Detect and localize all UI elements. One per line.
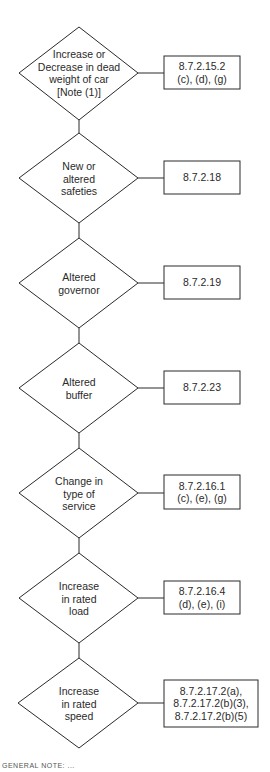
decision-label-1: Increase or Decrease in dead weight of c… [24,48,134,98]
decision-label-6: Increase in rated load [24,580,134,618]
reference-label-2: 8.7.2.18 [164,161,240,194]
decision-label-2: New or altered safeties [24,160,134,198]
reference-label-5: 8.7.2.16.1 (c), (e), (g) [164,475,240,509]
decision-label-3: Altered governor [24,271,134,296]
reference-label-7: 8.7.2.17.2(a), 8.7.2.17.2(b)(3), 8.7.2.1… [164,680,258,727]
reference-label-3: 8.7.2.19 [164,266,240,299]
reference-label-1: 8.7.2.15.2 (c), (d), (g) [164,56,240,89]
decision-label-5: Change in type of service [24,475,134,513]
reference-label-4: 8.7.2.23 [164,371,240,404]
decision-label-7: Increase in rated speed [24,685,134,723]
general-note-fragment: GENERAL NOTE: ... [2,762,75,769]
reference-label-6: 8.7.2.16.4 (d), (e), (i) [164,581,240,614]
decision-label-4: Altered buffer [24,376,134,401]
